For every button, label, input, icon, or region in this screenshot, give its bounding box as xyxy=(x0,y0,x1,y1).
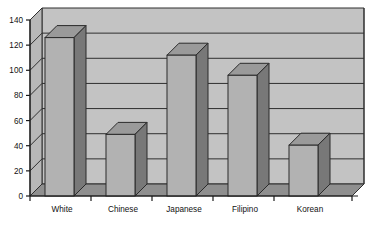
category-label-korean: Korean xyxy=(297,205,324,214)
y-tick-label-0: 0 xyxy=(18,192,23,201)
y-tick-label-80: 80 xyxy=(14,91,24,100)
bar-filipino-front xyxy=(228,75,257,196)
y-tick-label-120: 120 xyxy=(9,41,23,50)
y-tick-label-100: 100 xyxy=(9,66,23,75)
bar-korean-front xyxy=(289,145,318,196)
bar-white-front xyxy=(45,38,74,196)
bar-chart: 140 120 100 80 60 40 20 0 White Chinese … xyxy=(0,0,372,229)
bar-white[interactable] xyxy=(45,26,86,196)
y-tick-label-140: 140 xyxy=(9,16,23,25)
y-tick-label-60: 60 xyxy=(14,117,24,126)
category-label-japanese: Japanese xyxy=(166,205,202,214)
y-axis-tick-labels: 140 120 100 80 60 40 20 0 xyxy=(9,16,23,201)
bar-japanese-side xyxy=(196,43,208,196)
y-tick-label-20: 20 xyxy=(14,167,24,176)
x-axis-ticks xyxy=(30,196,352,201)
bar-white-side xyxy=(74,26,86,196)
x-axis-category-labels: White Chinese Japanese Filipino Korean xyxy=(52,205,324,214)
bar-chinese-side xyxy=(135,122,147,196)
bar-korean[interactable] xyxy=(289,133,330,196)
category-label-filipino: Filipino xyxy=(232,205,258,214)
left-side-wall xyxy=(30,8,42,196)
bar-filipino-side xyxy=(257,63,269,196)
bar-japanese-front xyxy=(167,55,196,196)
category-label-white: White xyxy=(52,205,73,214)
bar-filipino[interactable] xyxy=(228,63,269,196)
chart-canvas: 140 120 100 80 60 40 20 0 White Chinese … xyxy=(0,0,372,229)
category-label-chinese: Chinese xyxy=(108,205,138,214)
bar-japanese[interactable] xyxy=(167,43,208,196)
bar-chinese-front xyxy=(106,134,135,196)
bar-chinese[interactable] xyxy=(106,122,147,196)
y-tick-label-40: 40 xyxy=(14,142,24,151)
